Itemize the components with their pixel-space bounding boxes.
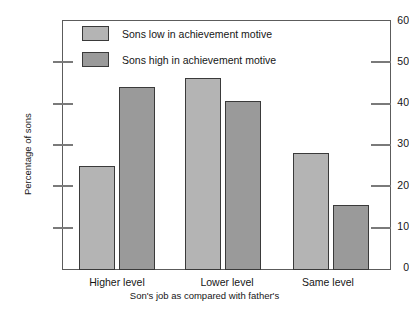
y-axis-title: Percentage of sons <box>22 113 33 195</box>
legend-label-high: Sons high in achievement motive <box>122 54 276 66</box>
x-category-label-lower-level: Lower level <box>172 277 282 288</box>
bar-higher-level-low[interactable] <box>79 166 115 270</box>
legend-swatch-low <box>82 26 109 41</box>
legend-swatch-high <box>82 52 109 67</box>
bar-lower-level-low[interactable] <box>185 78 221 270</box>
bar-same-level-low[interactable] <box>293 153 329 270</box>
bar-higher-level-high[interactable] <box>119 87 155 270</box>
x-category-label-higher-level: Higher level <box>62 277 172 288</box>
bar-chart: 60 50 40 30 20 10 0 Higher level Lower l… <box>0 0 409 312</box>
legend-item-low[interactable]: Sons low in achievement motive <box>82 26 272 41</box>
legend-label-low: Sons low in achievement motive <box>122 28 272 40</box>
bar-same-level-high[interactable] <box>333 205 369 270</box>
x-axis-title: Son's job as compared with father's <box>0 290 409 301</box>
bar-lower-level-high[interactable] <box>225 101 261 270</box>
x-category-label-same-level: Same level <box>273 277 383 288</box>
legend-item-high[interactable]: Sons high in achievement motive <box>82 52 276 67</box>
